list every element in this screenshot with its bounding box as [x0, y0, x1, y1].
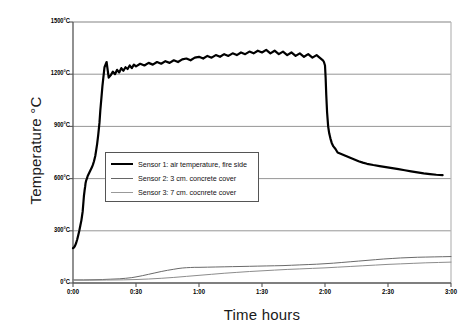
legend-line-sensor2-icon	[111, 178, 133, 179]
legend-label-sensor1: Sensor 1: air temperature, fire side	[138, 160, 247, 169]
legend-line-sensor1-icon	[111, 163, 133, 165]
legend-label-sensor2: Sensor 2: 3 cm. concrete cover	[138, 174, 236, 183]
series-line-1	[73, 50, 443, 248]
legend-item-sensor3: Sensor 3: 7 cm. cocnrete cover	[111, 185, 254, 199]
series-line-2	[73, 257, 451, 280]
legend-item-sensor1: Sensor 1: air temperature, fire side	[111, 157, 254, 171]
temperature-time-chart: Temperature °C Time hours 1500°C1200°C90…	[0, 0, 472, 336]
chart-legend: Sensor 1: air temperature, fire side Sen…	[105, 152, 259, 202]
legend-line-sensor3-icon	[111, 192, 133, 193]
legend-label-sensor3: Sensor 3: 7 cm. cocnrete cover	[138, 188, 236, 197]
legend-item-sensor2: Sensor 2: 3 cm. concrete cover	[111, 171, 254, 185]
